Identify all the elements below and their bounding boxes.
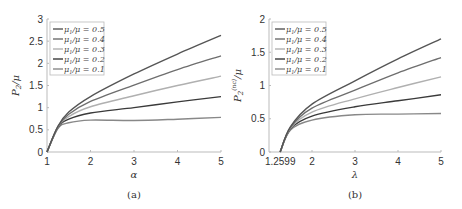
x-tick-label: 2 — [309, 156, 315, 167]
y-tick-label: 1 — [259, 80, 265, 91]
x-tick-label: 3 — [352, 156, 358, 167]
y-tick-label: 1.5 — [29, 80, 43, 91]
y-tick-label: 0.5 — [251, 113, 265, 124]
series-line — [47, 117, 221, 152]
y-axis-label: P2(nc)/μ — [230, 69, 245, 103]
x-tick-label: 1 — [44, 156, 50, 167]
y-tick-label: 0.5 — [29, 124, 43, 135]
series-line — [280, 95, 441, 152]
y-tick-label: 2 — [259, 14, 265, 25]
y-tick-label: 2 — [37, 58, 43, 69]
x-tick-label: 5 — [438, 156, 444, 167]
x-tick-label: 5 — [218, 156, 224, 167]
x-tick-label: 4 — [395, 156, 401, 167]
x-tick-label: 2 — [88, 156, 94, 167]
chart-panel-a: 00.511.522.5312345αP2/μμ1/μ = 0.5μ1/μ = … — [10, 14, 224, 201]
panel-caption: (a) — [127, 189, 141, 200]
y-tick-label: 1.5 — [251, 47, 265, 58]
y-tick-label: 2.5 — [29, 36, 43, 47]
x-tick-label: 3 — [131, 156, 137, 167]
x-axis-label: α — [131, 169, 138, 180]
y-tick-label: 0 — [37, 147, 43, 158]
series-line — [47, 97, 221, 152]
figure: 00.511.522.5312345αP2/μμ1/μ = 0.5μ1/μ = … — [0, 0, 462, 209]
series-line — [47, 76, 221, 152]
x-axis-label: λ — [351, 169, 358, 180]
x-tick-label: 1.2599 — [265, 156, 296, 167]
y-axis-label: P2/μ — [10, 75, 23, 97]
y-tick-label: 1 — [37, 102, 43, 113]
chart-panel-b: 00.511.521.25992345λP2(nc)/μμ1/μ = 0.5μ1… — [230, 14, 444, 201]
y-tick-label: 3 — [37, 14, 43, 25]
x-tick-label: 4 — [175, 156, 181, 167]
panel-caption: (b) — [348, 189, 362, 200]
